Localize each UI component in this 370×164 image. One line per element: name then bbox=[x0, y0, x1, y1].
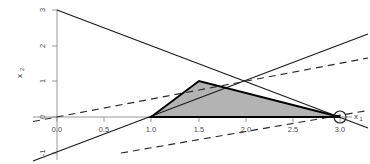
plot-canvas: 0.0 0.5 1.0 1.5 2.0 2.5 3.0 -1 0 1 2 3 bbox=[0, 0, 370, 164]
chart-figure: 0.0 0.5 1.0 1.5 2.0 2.5 3.0 -1 0 1 2 3 bbox=[0, 0, 370, 164]
y-tick-label-3: 2 bbox=[38, 44, 47, 48]
y-axis-title-text: x bbox=[15, 74, 24, 78]
y-axis-title-subscript: 2 bbox=[19, 68, 25, 71]
y-tick-label-2: 1 bbox=[38, 79, 47, 83]
axes-group bbox=[33, 9, 352, 160]
x-axis-title: x 1 bbox=[354, 112, 363, 122]
x-axis-tick-labels: 0.0 0.5 1.0 1.5 2.0 2.5 3.0 bbox=[52, 125, 345, 134]
x-axis-title-text: x bbox=[354, 112, 358, 121]
constraint-line-ascending bbox=[33, 34, 368, 161]
x-axis-title-subscript: 1 bbox=[360, 116, 363, 122]
x-tick-label-3: 1.5 bbox=[194, 125, 204, 134]
y-tick-label-1: 0 bbox=[38, 115, 47, 119]
y-axis-tick-labels: -1 0 1 2 3 bbox=[38, 8, 47, 156]
y-tick-label-4: 3 bbox=[38, 8, 47, 12]
feasible-region-fill bbox=[151, 81, 340, 117]
y-axis-title: x 2 bbox=[15, 68, 25, 78]
x-tick-label-0: 0.0 bbox=[52, 125, 62, 134]
x-tick-label-6: 3.0 bbox=[335, 125, 345, 134]
x-tick-label-2: 1.0 bbox=[146, 125, 156, 134]
y-tick-label-0: -1 bbox=[38, 150, 47, 157]
x-tick-label-5: 2.5 bbox=[288, 125, 298, 134]
